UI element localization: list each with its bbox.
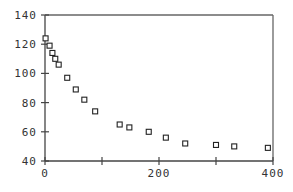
- data-point: [232, 144, 237, 149]
- data-point: [53, 56, 58, 61]
- y-tick-label: 120: [14, 38, 37, 51]
- data-series: [43, 36, 270, 151]
- data-point: [93, 109, 98, 114]
- y-tick-label: 80: [22, 97, 37, 110]
- data-point: [214, 142, 219, 147]
- y-tick-label: 60: [22, 126, 37, 139]
- x-tick-label: 400: [262, 167, 285, 180]
- x-tick-label: 200: [148, 167, 171, 180]
- x-tick-label: 0: [41, 167, 49, 180]
- data-point: [183, 141, 188, 146]
- y-tick-label: 100: [14, 67, 37, 80]
- data-point: [82, 97, 87, 102]
- data-point: [146, 129, 151, 134]
- data-point: [56, 62, 61, 67]
- data-point: [50, 50, 55, 55]
- data-point: [163, 135, 168, 140]
- y-tick-label: 140: [14, 9, 37, 22]
- y-axis: 406080100120140: [14, 9, 49, 168]
- data-point: [265, 145, 270, 150]
- data-point: [127, 125, 132, 130]
- scatter-chart: 406080100120140 0200400: [0, 0, 293, 192]
- data-point: [47, 43, 52, 48]
- data-point: [73, 87, 78, 92]
- data-point: [117, 122, 122, 127]
- data-point: [43, 36, 48, 41]
- data-point: [65, 75, 70, 80]
- y-tick-label: 40: [22, 155, 37, 168]
- plot-frame: [45, 15, 273, 161]
